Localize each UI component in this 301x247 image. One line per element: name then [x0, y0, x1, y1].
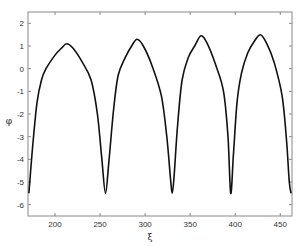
x-tick-label: 350 [184, 220, 198, 229]
x-tick-label: 200 [48, 220, 62, 229]
y-tick-label: 2 [20, 19, 25, 28]
y-tick-label: -5 [17, 178, 25, 187]
y-axis-label: φ [6, 116, 12, 126]
y-tick-label: 0 [20, 65, 25, 74]
plot-area: 200250300350400450 210-1-2-3-4-5-6 [17, 12, 292, 229]
y-tick-label: -3 [17, 133, 25, 142]
y-tick-label: -6 [17, 201, 25, 210]
x-tick-label: 250 [93, 220, 107, 229]
x-axis-label: ξ [148, 232, 153, 242]
y-tick-label: -1 [17, 87, 25, 96]
y-tick-label: -2 [17, 110, 25, 119]
plot-frame [28, 12, 292, 216]
phi-curve [29, 35, 291, 194]
y-tick-label: 1 [20, 42, 25, 51]
line-chart: 200250300350400450 210-1-2-3-4-5-6 ξ φ [0, 0, 301, 247]
x-tick-label: 400 [229, 220, 243, 229]
x-tick-label: 300 [138, 220, 152, 229]
x-tick-label: 450 [274, 220, 288, 229]
y-tick-label: -4 [17, 155, 25, 164]
